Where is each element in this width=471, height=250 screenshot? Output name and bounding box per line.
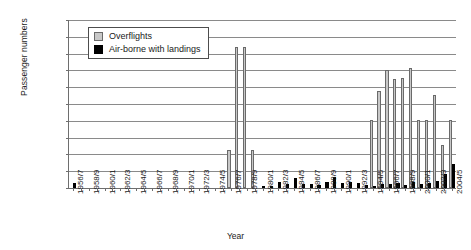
x-tick-mark xyxy=(81,188,82,191)
bar-group xyxy=(266,20,274,188)
bar-group xyxy=(353,20,361,188)
x-tick-mark xyxy=(397,188,398,191)
x-tick-mark xyxy=(247,188,248,191)
legend-item-airborne-with-landings: Air-borne with landings xyxy=(94,45,201,54)
bar-group xyxy=(345,20,353,188)
bar-group xyxy=(369,20,377,188)
x-tick-mark xyxy=(405,188,406,191)
x-tick-mark xyxy=(199,188,200,191)
bar-group xyxy=(243,20,251,188)
y-axis-title: Passenger numbers xyxy=(19,0,29,127)
x-tick-mark xyxy=(97,188,98,191)
x-tick-mark xyxy=(263,188,264,191)
x-tick-mark xyxy=(381,188,382,191)
bar-overflights xyxy=(243,47,246,188)
bar-group xyxy=(274,20,282,188)
x-tick-mark xyxy=(436,188,437,191)
bar-group xyxy=(377,20,385,188)
bar-overflights xyxy=(385,70,388,188)
bar-group xyxy=(314,20,322,188)
x-tick-mark xyxy=(223,188,224,191)
bar-group xyxy=(322,20,330,188)
bar-overflights xyxy=(370,120,373,188)
bar-group xyxy=(424,20,432,188)
x-tick-mark xyxy=(318,188,319,191)
legend: Overflights Air-borne with landings xyxy=(88,27,209,59)
x-tick-mark xyxy=(160,188,161,191)
bar-chart: Passenger numbers 0500100015002000250030… xyxy=(0,0,471,250)
bar-overflights xyxy=(235,47,238,188)
bar-overflights xyxy=(417,120,420,188)
x-tick-mark xyxy=(144,188,145,191)
x-tick-mark xyxy=(105,188,106,191)
bar-group xyxy=(227,20,235,188)
x-tick-mark xyxy=(389,188,390,191)
bar-overflights xyxy=(433,95,436,188)
x-tick-mark xyxy=(120,188,121,191)
x-tick-mark xyxy=(89,188,90,191)
x-tick-mark xyxy=(239,188,240,191)
x-tick-mark xyxy=(326,188,327,191)
x-tick-mark xyxy=(207,188,208,191)
x-tick-mark xyxy=(286,188,287,191)
bar-group xyxy=(219,20,227,188)
bar-group xyxy=(330,20,338,188)
x-tick-mark xyxy=(112,188,113,191)
x-tick-mark xyxy=(270,188,271,191)
x-tick-mark xyxy=(176,188,177,191)
bar-group xyxy=(417,20,425,188)
x-tick-mark xyxy=(73,188,74,191)
legend-swatch-airborne-icon xyxy=(94,45,103,54)
x-tick-mark xyxy=(452,188,453,191)
legend-swatch-overflights-icon xyxy=(94,32,103,41)
bar-overflights xyxy=(227,150,230,188)
bar-group xyxy=(306,20,314,188)
bar-group xyxy=(211,20,219,188)
x-tick-mark xyxy=(255,188,256,191)
legend-label-airborne-with-landings: Air-borne with landings xyxy=(109,45,201,54)
x-tick-mark xyxy=(428,188,429,191)
legend-label-overflights: Overflights xyxy=(109,32,152,41)
x-tick-mark xyxy=(152,188,153,191)
bar-overflights xyxy=(401,78,404,188)
bar-group xyxy=(361,20,369,188)
bar-group xyxy=(432,20,440,188)
bar-group xyxy=(290,20,298,188)
bar-group xyxy=(251,20,259,188)
x-tick-mark xyxy=(128,188,129,191)
bar-group xyxy=(69,20,77,188)
x-tick-mark xyxy=(294,188,295,191)
x-tick-mark xyxy=(413,188,414,191)
bar-group xyxy=(385,20,393,188)
x-tick-mark xyxy=(278,188,279,191)
bar-group xyxy=(401,20,409,188)
bar-group xyxy=(448,20,456,188)
bar-group xyxy=(282,20,290,188)
bar-group xyxy=(77,20,85,188)
x-tick-mark xyxy=(215,188,216,191)
x-tick-mark xyxy=(373,188,374,191)
bar-group xyxy=(393,20,401,188)
bar-group xyxy=(409,20,417,188)
bar-group xyxy=(259,20,267,188)
x-axis-title: Year xyxy=(0,231,471,241)
x-tick-mark xyxy=(334,188,335,191)
x-tick-mark xyxy=(444,188,445,191)
x-tick-mark xyxy=(191,188,192,191)
y-tick-mark xyxy=(66,188,69,189)
x-tick-mark xyxy=(341,188,342,191)
bar-group xyxy=(298,20,306,188)
bar-group xyxy=(440,20,448,188)
legend-item-overflights: Overflights xyxy=(94,32,201,41)
bar-group xyxy=(235,20,243,188)
x-tick-mark xyxy=(357,188,358,191)
x-tick-label: 2004/5 xyxy=(455,170,464,194)
x-tick-mark xyxy=(168,188,169,191)
x-tick-mark xyxy=(184,188,185,191)
x-tick-mark xyxy=(310,188,311,191)
x-tick-mark xyxy=(349,188,350,191)
bar-group xyxy=(338,20,346,188)
x-tick-mark xyxy=(420,188,421,191)
x-tick-mark xyxy=(136,188,137,191)
x-tick-mark xyxy=(231,188,232,191)
